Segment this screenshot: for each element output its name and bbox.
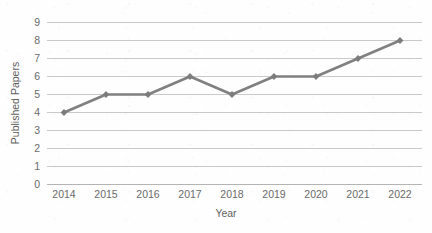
x-axis-title: Year bbox=[215, 207, 237, 219]
y-tick-label: 2 bbox=[34, 142, 40, 154]
line-chart: 9 8 7 6 5 4 3 2 1 0 2014 2015 2016 2017 … bbox=[0, 0, 432, 233]
y-tick-label: 1 bbox=[34, 160, 40, 172]
y-tick-label: 6 bbox=[34, 70, 40, 82]
x-tick-label: 2018 bbox=[220, 188, 244, 200]
x-tick-label: 2016 bbox=[136, 188, 160, 200]
y-tick-label: 7 bbox=[34, 52, 40, 64]
y-tick-label: 8 bbox=[34, 34, 40, 46]
x-tick-label: 2020 bbox=[304, 188, 328, 200]
y-axis-title: Published Papers bbox=[9, 62, 21, 144]
y-tick-labels: 9 8 7 6 5 4 3 2 1 0 bbox=[34, 16, 40, 190]
x-tick-label: 2017 bbox=[178, 188, 202, 200]
x-tick-label: 2015 bbox=[94, 188, 118, 200]
y-tick-label: 5 bbox=[34, 88, 40, 100]
y-tick-label: 4 bbox=[34, 106, 40, 118]
chart-figure: 9 8 7 6 5 4 3 2 1 0 2014 2015 2016 2017 … bbox=[0, 0, 432, 233]
x-tick-labels: 2014 2015 2016 2017 2018 2019 2020 2021 … bbox=[52, 188, 412, 200]
x-tick-label: 2021 bbox=[346, 188, 370, 200]
y-tick-label: 9 bbox=[34, 16, 40, 28]
x-tick-label: 2014 bbox=[52, 188, 76, 200]
x-tick-label: 2019 bbox=[262, 188, 286, 200]
x-tick-label: 2022 bbox=[388, 188, 412, 200]
y-tick-label: 3 bbox=[34, 124, 40, 136]
y-tick-label: 0 bbox=[34, 178, 40, 190]
